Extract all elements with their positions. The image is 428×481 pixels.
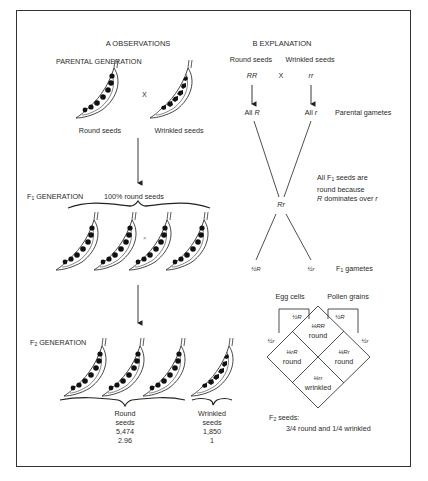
f1-gamete-half-r: ½r [307,266,314,272]
pod-wrinkled-parent [150,60,192,118]
f1-note: 100% round seeds [104,193,164,200]
cell-rr-genotype: ¼rr [305,374,331,383]
cross-line-left-bottom [256,214,276,260]
gamete-all-r: All r [305,109,317,116]
parental-gametes-label: Parental gametes [335,109,391,116]
genotype-rr: rr [309,72,314,79]
f1-gamete-half-R: ½R [251,266,260,272]
dominance-note-line2: round because [317,185,378,195]
parent-round-label: Round seeds [79,127,121,134]
f2-wrinkled-summary: Wrinkled seeds 1,850 1 [198,409,226,445]
f2-round-line1: Round [114,409,135,418]
f2-wrinkled-ratio: 1 [198,436,226,445]
cell-rR-phenotype: round [283,357,301,366]
pod-f2-2 [102,338,144,396]
pollen-grains-label: Pollen grains [327,293,369,300]
b-parent-round-label: Round seeds [230,56,272,63]
pollen-half-R: ½R [335,314,344,320]
cell-Rr-phenotype: round [335,357,353,366]
b-parent-wrinkled-label: Wrinkled seeds [285,56,334,63]
cell-RR-phenotype: round [309,331,327,340]
pod-f1-1 [56,212,98,270]
punnett-cell-rr: ¼rr wrinkled [305,374,331,392]
f2-wrinkled-line1: Wrinkled [198,409,226,418]
f2-wrinkled-count: 1,850 [198,427,226,436]
pod-f1-2 [94,212,136,270]
pod-round-parent [76,60,118,118]
cell-rr-phenotype: wrinkled [305,383,331,392]
punnett-cell-rR: ¼rR round [283,348,301,366]
panel-a-title: A OBSERVATIONS [106,40,171,48]
f2-round-summary: Round seeds 5,474 2.96 [114,409,135,445]
pod-f2-3 [143,338,185,396]
f2-seeds-label: F2 seeds: [269,414,299,422]
pod-f2-wrinkled [191,338,233,396]
f1-gametes-label: F1 gametes [336,265,373,273]
parent-wrinkled-label: Wrinkled seeds [154,127,203,134]
b-cross-symbol: X [279,72,284,79]
panel-b-title: B EXPLANATION [252,40,311,48]
f1-genotype-Rr: Rr [277,201,285,208]
dominance-note-line3: R dominates over r [317,194,378,204]
cross-line-right-top [284,121,311,197]
dominance-note: All F1 seeds are round because R dominat… [317,173,378,204]
f2-round-count: 5,474 [114,427,135,436]
f2-wrinkled-line2: seeds [198,418,226,427]
f2-round-brace [60,398,185,406]
f1-brace [68,201,210,208]
f2-round-line2: seeds [114,418,135,427]
pod-f1-4 [166,212,208,270]
parental-generation-label: PARENTAL GENERATION [56,58,142,65]
gamete-all-R: All R [244,109,259,116]
f2-wrinkled-brace [192,399,232,406]
f2-generation-label: F2 GENERATION [30,339,86,347]
cell-RR-genotype: ¼RR [309,322,327,331]
egg-half-r: ½r [267,338,274,344]
cross-line-right-bottom [286,214,311,260]
egg-half-R: ½R [292,314,301,320]
cross-line-left-top [254,121,279,197]
cell-rR-genotype: ¼rR [283,348,301,357]
pollen-half-r: ½r [361,338,368,344]
punnett-cell-RR: ¼RR round [309,322,327,340]
f2-seeds-summary: 3/4 round and 1/4 wrinkled [286,425,371,432]
parental-cross-symbol: X [142,91,147,98]
dominance-note-line1: All F1 seeds are [317,173,378,185]
egg-cells-label: Egg cells [275,293,304,300]
f1-generation-label: F1 GENERATION [27,193,83,201]
f2-round-ratio: 2.96 [114,436,135,445]
genotype-RR: RR [247,72,257,79]
punnett-cell-Rr: ¼Rr round [335,348,353,366]
f1-cross-symbol: × [143,235,147,241]
cell-Rr-genotype: ¼Rr [335,348,353,357]
